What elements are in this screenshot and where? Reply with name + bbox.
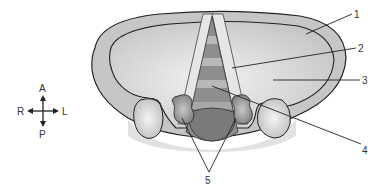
orientation-compass: A P R L [17, 83, 68, 140]
compass-left: L [62, 106, 68, 117]
arrow-right-icon [53, 108, 59, 114]
label-1: 1 [354, 9, 360, 20]
compass-anterior: A [39, 83, 46, 94]
compass-right: R [17, 106, 24, 117]
label-4: 4 [362, 145, 368, 156]
pelvic-floor-diagram: 1 2 3 4 5 A P R L [0, 0, 389, 196]
label-3: 3 [362, 75, 368, 86]
arrow-left-icon [27, 108, 33, 114]
label-2: 2 [358, 43, 364, 54]
compass-posterior: P [39, 129, 46, 140]
right-lobe [258, 99, 291, 138]
arrow-down-icon [40, 121, 46, 127]
arrow-up-icon [40, 95, 46, 101]
label-5: 5 [205, 175, 211, 186]
